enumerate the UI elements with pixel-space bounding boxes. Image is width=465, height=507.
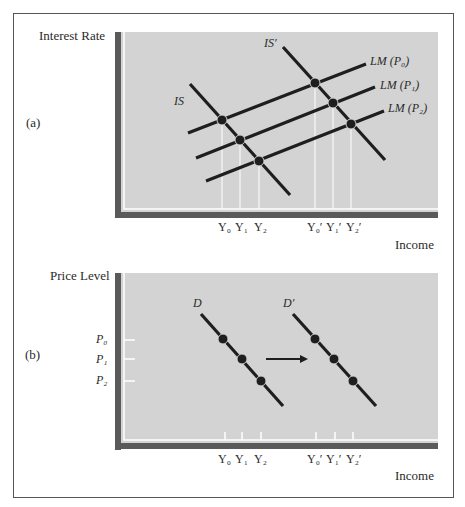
lm-p1-label: LM (P₁) [380,78,419,93]
equilibrium-point [254,156,264,166]
panel-b-y-label: Price Level [50,268,110,284]
demand-point [329,354,339,364]
equilibrium-point [217,115,227,125]
panel-b-x-axis [115,443,438,449]
panel-a-tag: (a) [26,115,40,131]
is-prime-label: IS′ [264,36,277,51]
is-label: IS [174,94,184,109]
panel-b-ytick: P₁ [96,352,108,367]
equilibrium-point [328,98,338,108]
demand-point [218,334,228,344]
figure-canvas [0,0,465,507]
panel-a-xtick: Y₀′ [307,220,322,235]
panel-b-plot [115,273,438,450]
panel-b-xtick: Y₀′ [307,452,322,467]
panel-a-x-label: Income [395,237,434,253]
panel-b-ytick: P₀ [96,332,108,347]
panel-a-y-axis [115,32,121,218]
equilibrium-point [310,78,320,88]
panel-a-xtick: Y₂ [254,220,267,235]
demand-point [237,354,247,364]
panel-b-xtick: Y₂′ [346,452,361,467]
panel-b-xtick: Y₁ [235,452,248,467]
equilibrium-point [235,135,245,145]
panel-b-xtick: Y₂ [254,452,267,467]
equilibrium-point [346,119,356,129]
d-label: D [193,296,202,311]
panel-a-xtick: Y₀ [218,220,231,235]
panel-a-xtick: Y₁ [235,220,248,235]
demand-point [310,334,320,344]
panel-b-y-axis [115,273,121,450]
demand-point [256,376,266,386]
panel-a-y-label: Interest Rate [39,28,105,44]
panel-a-x-axis [115,212,438,218]
d-prime-label: D′ [283,296,294,311]
panel-b-xtick: Y₁′ [326,452,341,467]
panel-b-x-label: Income [395,468,434,484]
panel-b-ytick: P₂ [96,373,108,388]
lm-p2-label: LM (P₂) [388,101,427,116]
demand-point [348,376,358,386]
panel-b-tag: (b) [25,347,40,363]
lm-p0-label: LM (P₀) [370,54,409,69]
panel-a-xtick: Y₂′ [346,220,361,235]
panel-a-xtick: Y₁′ [326,220,341,235]
panel-b-xtick: Y₀ [218,452,231,467]
